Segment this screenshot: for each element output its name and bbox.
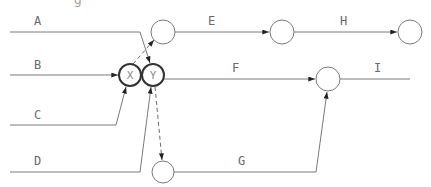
activity-i-label: I: [374, 61, 381, 75]
dummy-y-to-bottom: [155, 87, 162, 160]
node-x: X: [119, 64, 141, 86]
node-top-end: [398, 20, 422, 44]
network-diagram: g A B C D E F G H: [0, 0, 431, 187]
activity-a-label: A: [34, 14, 42, 28]
activity-d: D: [10, 87, 151, 172]
activity-c: C: [10, 87, 126, 125]
node-top-1: [151, 20, 175, 44]
node-y: Y: [142, 64, 164, 86]
activity-g-arrow: [174, 92, 327, 172]
activity-b: B: [10, 58, 118, 75]
activity-g: G: [174, 92, 327, 172]
activity-b-label: B: [34, 58, 41, 72]
activity-c-arrow: [10, 87, 126, 125]
node-y-label: Y: [150, 69, 157, 82]
activity-h-label: H: [340, 14, 347, 28]
activity-e-label: E: [208, 14, 215, 28]
node-x-label: X: [127, 69, 134, 82]
node-mid: [316, 67, 340, 91]
activity-h: H: [294, 14, 397, 32]
activity-a: A: [10, 14, 150, 63]
activity-f-label: F: [232, 61, 239, 75]
node-bottom: [152, 161, 174, 183]
activity-i: I: [340, 61, 410, 79]
activity-f: F: [163, 61, 315, 79]
activity-d-arrow: [10, 87, 151, 172]
clipped-heading-fragment: g: [74, 0, 82, 7]
activity-c-label: C: [34, 108, 41, 122]
activity-a-arrow: [10, 32, 150, 63]
activity-g-label: G: [238, 154, 245, 168]
activity-d-label: D: [34, 154, 41, 168]
activity-e: E: [175, 14, 269, 32]
node-top-2: [270, 20, 294, 44]
